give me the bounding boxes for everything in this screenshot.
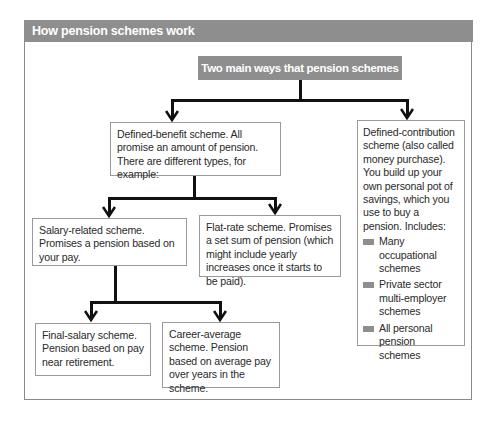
arrow-down-icon <box>165 110 179 122</box>
connector-root-stem <box>299 80 302 101</box>
arrow-down-icon <box>84 310 98 322</box>
bullet-icon <box>363 282 374 288</box>
bullet-icon <box>363 239 374 245</box>
connector-salary-horizontal <box>90 301 222 304</box>
arrow-down-icon <box>213 310 227 322</box>
defined-benefit-node: Defined-benefit scheme. All promise an a… <box>110 122 281 176</box>
connector-root-horizontal <box>171 99 409 102</box>
arrow-down-icon <box>400 108 414 120</box>
final-salary-node: Final-salary scheme. Pension based on pa… <box>35 323 151 376</box>
list-item: Many occupational schemes <box>363 235 459 275</box>
defined-contribution-text: Defined-contribution scheme (also called… <box>363 126 459 233</box>
salary-related-node: Salary-related scheme. Promises a pensio… <box>32 218 187 266</box>
defined-contribution-node: Defined-contribution scheme (also called… <box>357 120 465 346</box>
arrow-down-icon <box>268 203 282 215</box>
connector-db-stem <box>193 176 196 199</box>
list-item: All personal pension schemes <box>363 322 459 362</box>
list-item: Private sector multi-employer schemes <box>363 278 459 318</box>
panel-header: How pension schemes work <box>24 20 473 42</box>
flat-rate-node: Flat-rate scheme. Promises a set sum of … <box>199 215 341 277</box>
career-average-node: Career-average scheme. Pension based on … <box>162 322 280 388</box>
connector-salary-stem <box>114 266 117 303</box>
bullet-icon <box>363 326 374 332</box>
connector-db-horizontal <box>108 197 277 200</box>
defined-benefit-text: Defined-benefit scheme. All promise an a… <box>117 128 258 180</box>
root-node: Two main ways that pension schemes work <box>198 56 402 80</box>
arrow-down-icon <box>102 206 116 218</box>
